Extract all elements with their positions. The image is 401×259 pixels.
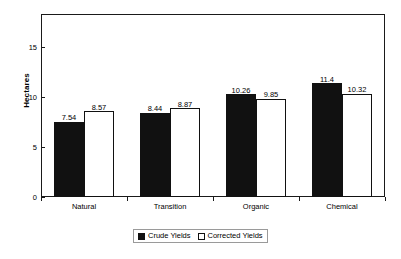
bars-layer: 7.548.578.448.8710.269.8511.410.32 bbox=[41, 14, 385, 197]
x-axis-separator bbox=[213, 197, 214, 201]
x-axis-separator bbox=[41, 197, 42, 201]
x-axis-separator bbox=[127, 197, 128, 201]
y-tick-label: 15 bbox=[13, 44, 37, 52]
x-axis-separator bbox=[385, 197, 386, 201]
chart-legend: Crude YieldsCorrected Yields bbox=[133, 229, 268, 243]
bar-value-label: 11.4 bbox=[320, 76, 334, 84]
x-axis-label: Natural bbox=[39, 203, 129, 211]
hollow-square-icon bbox=[198, 233, 205, 240]
bar-corrected[interactable]: 9.85 bbox=[256, 99, 286, 198]
x-axis-label: Transition bbox=[125, 203, 215, 211]
x-axis-label: Organic bbox=[211, 203, 301, 211]
bar-crude[interactable]: 8.44 bbox=[140, 113, 170, 197]
bar-group: 7.548.57 bbox=[41, 14, 127, 197]
bar-value-label: 8.57 bbox=[92, 104, 107, 112]
filled-square-icon bbox=[138, 233, 145, 240]
bar-corrected[interactable]: 8.57 bbox=[84, 111, 114, 197]
x-axis-separator bbox=[299, 197, 300, 201]
legend-item[interactable]: Crude Yields bbox=[138, 232, 191, 240]
bar-value-label: 7.54 bbox=[62, 114, 77, 122]
bar-group: 8.448.87 bbox=[127, 14, 213, 197]
bar-value-label: 8.87 bbox=[178, 101, 193, 109]
y-tick-label: 10 bbox=[13, 94, 37, 102]
bar-crude[interactable]: 7.54 bbox=[54, 122, 84, 197]
y-tick-label: 0 bbox=[13, 194, 37, 202]
legend-item-label: Crude Yields bbox=[148, 232, 191, 240]
legend-item[interactable]: Corrected Yields bbox=[198, 232, 263, 240]
bar-corrected[interactable]: 10.32 bbox=[342, 94, 372, 197]
bar-chart: Hectares 151050 7.548.578.448.8710.269.8… bbox=[0, 0, 401, 259]
bar-crude[interactable]: 11.4 bbox=[312, 83, 342, 197]
bar-crude[interactable]: 10.26 bbox=[226, 94, 256, 197]
bar-value-label: 10.26 bbox=[232, 87, 251, 95]
bar-group: 10.269.85 bbox=[213, 14, 299, 197]
bar-group: 11.410.32 bbox=[299, 14, 385, 197]
bar-value-label: 10.32 bbox=[348, 86, 367, 94]
x-axis-label: Chemical bbox=[297, 203, 387, 211]
bar-value-label: 9.85 bbox=[264, 91, 279, 99]
bar-value-label: 8.44 bbox=[148, 105, 163, 113]
legend-item-label: Corrected Yields bbox=[208, 232, 263, 240]
bar-corrected[interactable]: 8.87 bbox=[170, 108, 200, 197]
y-axis-title: Hectares bbox=[22, 51, 31, 131]
y-tick-label: 5 bbox=[13, 144, 37, 152]
